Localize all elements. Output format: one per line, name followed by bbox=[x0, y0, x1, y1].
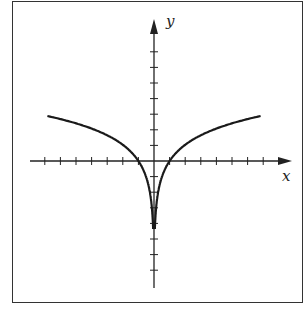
right-branch-curve bbox=[155, 116, 261, 229]
axes bbox=[30, 19, 292, 288]
x-axis-arrow-icon bbox=[278, 157, 292, 165]
chart-plot bbox=[0, 0, 306, 311]
y-axis-label: y bbox=[166, 12, 174, 30]
x-axis-label: x bbox=[282, 167, 290, 185]
left-branch-curve bbox=[47, 116, 153, 229]
y-axis-arrow-icon bbox=[150, 19, 158, 34]
